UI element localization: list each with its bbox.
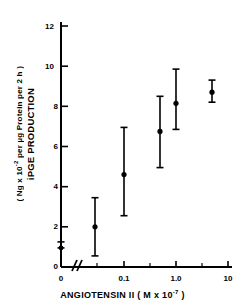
data-point-2	[121, 127, 128, 215]
data-point-0	[58, 242, 65, 250]
x-axis-title: ANGIOTENSIN II ( M x 10-7 )	[0, 289, 245, 300]
y-axis-ticks	[61, 26, 68, 267]
plot-area	[0, 0, 245, 308]
x-axis-title-post: )	[179, 290, 185, 300]
data-point-1	[92, 198, 99, 256]
data-point-3	[157, 96, 164, 167]
data-point-5	[209, 80, 216, 102]
figure-container: ( Ng x 10-2 per µg Protein per 2 h ) iPG…	[0, 0, 245, 308]
x-axis-title-pre: ANGIOTENSIN II ( M x 10	[60, 290, 172, 300]
data-point-4	[173, 69, 180, 129]
axis-break-icon	[72, 260, 82, 271]
